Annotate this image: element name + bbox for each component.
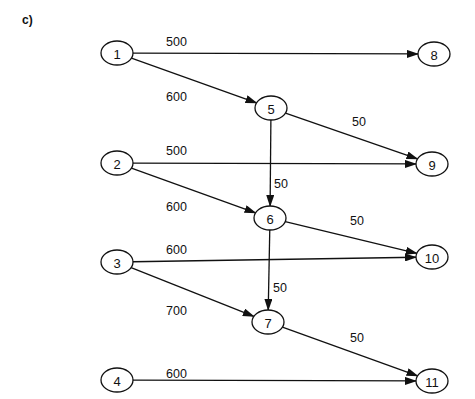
node-8: 8 [418, 42, 450, 66]
edge-2-to-6 [131, 168, 255, 213]
node-label: 7 [264, 316, 271, 331]
edge-weight-label: 50 [274, 177, 288, 191]
edge-weight-label: 600 [166, 367, 187, 381]
edge-weight-label: 50 [352, 115, 366, 129]
node-6: 6 [254, 206, 286, 230]
node-label: 4 [113, 374, 120, 389]
node-label: 8 [430, 48, 437, 63]
edge-weight-label: 600 [166, 90, 187, 104]
edge-weight-label: 50 [350, 331, 364, 345]
edge-weight-label: 600 [166, 200, 187, 214]
node-10: 10 [416, 245, 448, 269]
node-3: 3 [101, 250, 133, 274]
edge-weight-label: 700 [166, 304, 187, 318]
panel-label: c) [22, 13, 33, 27]
edge-1-to-8 [133, 53, 418, 54]
edge-2-to-9 [133, 163, 416, 164]
node-label: 10 [425, 251, 439, 266]
edge-6-to-7 [268, 230, 270, 310]
node-9: 9 [416, 152, 448, 176]
node-label: 2 [113, 157, 120, 172]
edge-weight-label: 500 [166, 144, 187, 158]
edge-weight-label: 50 [350, 214, 364, 228]
edge-3-to-7 [131, 268, 254, 317]
node-label: 1 [113, 47, 120, 62]
node-label: 3 [113, 256, 120, 271]
node-label: 11 [425, 375, 439, 390]
edge-weight-label: 500 [166, 35, 187, 49]
edge-1-to-5 [131, 58, 256, 103]
node-1: 1 [101, 41, 133, 65]
node-label: 6 [266, 212, 273, 227]
network-diagram: c) 5006005050050600506005070050600 18592… [0, 0, 475, 399]
edge-weight-label: 50 [273, 281, 287, 295]
edge-weight-label: 600 [166, 243, 187, 257]
node-label: 5 [267, 102, 274, 117]
node-label: 9 [428, 158, 435, 173]
node-4: 4 [101, 368, 133, 392]
node-7: 7 [252, 310, 284, 334]
edge-3-to-10 [133, 257, 416, 261]
node-11: 11 [416, 369, 448, 393]
node-2: 2 [101, 151, 133, 175]
nodes-group: 1859263107411 [101, 41, 450, 393]
edge-5-to-6 [270, 120, 271, 206]
node-5: 5 [255, 96, 287, 120]
